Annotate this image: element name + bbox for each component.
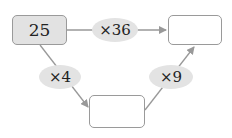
operator-label: ×4 bbox=[49, 68, 71, 86]
operator-label: ×9 bbox=[160, 68, 182, 86]
operator-times-4: ×4 bbox=[39, 65, 81, 89]
answer-box-bottom[interactable] bbox=[89, 95, 145, 128]
operator-times-9: ×9 bbox=[149, 65, 193, 89]
operator-label: ×36 bbox=[99, 21, 131, 39]
start-number-box: 25 bbox=[12, 15, 67, 45]
answer-box-top[interactable] bbox=[168, 15, 222, 45]
start-number: 25 bbox=[29, 20, 51, 40]
operator-times-36: ×36 bbox=[92, 18, 138, 42]
